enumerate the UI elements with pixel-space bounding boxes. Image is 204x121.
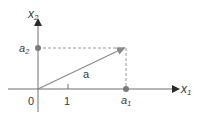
a1-dot	[123, 86, 129, 92]
vector-diagram: x2 x1 0 1 a a2 a1	[0, 0, 204, 121]
tick-label-1: 1	[64, 95, 70, 107]
a2-label: a2	[19, 42, 29, 55]
origin-label: 0	[28, 95, 34, 107]
a2-dot	[35, 45, 41, 51]
vector-label: a	[83, 68, 90, 80]
vector-a	[38, 48, 124, 89]
a1-label: a1	[121, 94, 131, 107]
x-axis-label: x1	[180, 82, 191, 97]
y-axis-label: x2	[27, 7, 39, 22]
